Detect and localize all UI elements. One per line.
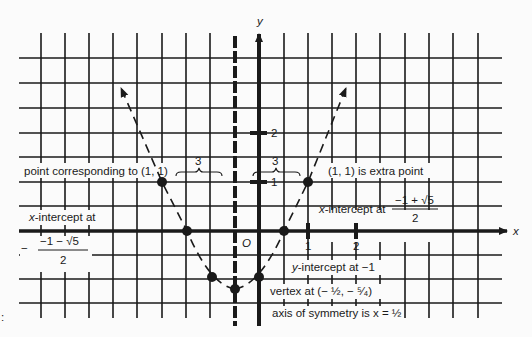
left-intercept-numerator: −1 − √5 [40,235,79,247]
right-point-annotation: (1, 1) is extra point [328,165,424,177]
vertex-point [230,284,240,294]
x-axis-label: x [512,225,520,237]
left-brace-label: 3 [195,155,201,167]
y-axis-label: y [256,15,264,27]
left-intercept-text: -intercept at [35,211,97,223]
right-x-intercept-point [279,226,289,236]
axis-of-symmetry-annotation: axis of symmetry is x = ½ [272,307,402,319]
margin-mark: : [1,311,4,323]
right-intercept-text: -intercept at [325,203,387,215]
left-x-intercept-point [182,226,192,236]
right-brace-label: 3 [272,155,278,167]
left-brace [176,168,222,176]
right-intercept-denominator: 2 [412,212,418,224]
label-backgrounds [20,163,440,321]
point-corresponding-to-1-1 [157,177,167,187]
right-intercept-numerator: −1 + √5 [395,194,434,206]
x-tick-2: 2 [353,240,359,252]
left-point-annotation: point corresponding to (1, 1) [24,165,168,177]
right-intercept-label: x-intercept at [318,203,386,215]
point-minus1-minus1 [207,272,217,282]
parabola-curve-left [121,88,235,289]
left-intercept-label: x-intercept at [28,211,96,223]
x-tick-1: 1 [305,240,311,252]
left-intercept-denominator: 2 [60,254,66,266]
parabola-figure: x y 2 1 1 2 O 3 3 point corresponding to… [0,0,532,337]
y-intercept-text: -intercept at −1 [298,261,375,273]
vertex-annotation: vertex at (− ½, − ⁵⁄₄) [270,285,372,297]
y-intercept-point [254,272,264,282]
left-intercept-sign: − [21,242,28,254]
extra-point [303,177,313,187]
y-intercept-annotation: y-intercept at −1 [291,261,375,273]
y-tick-1: 1 [271,176,277,188]
parabola-curve-right [235,88,346,289]
y-tick-2: 2 [271,127,277,139]
origin-label: O [242,237,251,249]
